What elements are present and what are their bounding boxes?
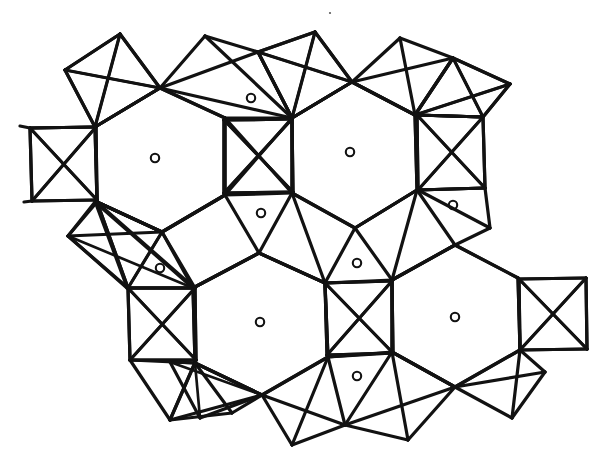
site-speck-top xyxy=(329,12,331,14)
crossed-square-far-right-edge xyxy=(520,349,587,350)
crossed-square-right-top-edge xyxy=(418,188,485,190)
crossed-square-far-right-edge xyxy=(586,278,587,349)
crossed-square-left-bottom-edge xyxy=(128,288,130,360)
crossed-square-far-left-edge xyxy=(96,127,97,200)
crossed-square-far-left-edge xyxy=(32,200,97,201)
tiling-figure xyxy=(0,0,608,473)
crossed-square-center-top-edge xyxy=(224,192,293,193)
crossed-square-center-top-edge xyxy=(292,119,293,192)
crossed-square-right-top-edge xyxy=(483,117,485,188)
crossed-square-center-bottom-edge xyxy=(325,281,392,283)
crossed-square-far-left-edge xyxy=(30,128,32,201)
tilted-quad-upper-far-right-edge xyxy=(415,115,483,117)
crossed-square-center-bottom-edge xyxy=(325,283,327,355)
crossed-square-center-bottom-edge xyxy=(392,281,393,353)
crossed-square-right-top-edge xyxy=(417,115,418,190)
crossed-square-far-right-edge xyxy=(519,279,520,350)
crossed-square-left-bottom-edge xyxy=(195,288,196,360)
crossed-square-far-left-edge xyxy=(30,127,96,128)
crossed-square-far-right-edge xyxy=(519,278,586,279)
crossed-square-center-top-edge xyxy=(224,119,292,120)
tiling-canvas xyxy=(0,0,608,473)
crossed-square-center-bottom-edge xyxy=(327,353,393,355)
